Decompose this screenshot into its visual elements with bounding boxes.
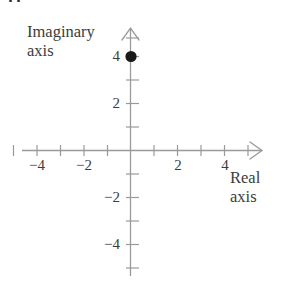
real-axis-label: Real axis xyxy=(230,168,260,206)
imaginary-axis-label: Imaginary axis xyxy=(27,22,95,60)
ytick-label-4: 4 xyxy=(100,49,120,64)
ytick-label-neg2: −2 xyxy=(92,190,120,205)
complex-plane-figure: 11. xyxy=(0,0,291,283)
plotted-point-4i xyxy=(125,51,136,62)
ytick-label-neg4: −4 xyxy=(92,237,120,252)
ytick-label-2: 2 xyxy=(100,96,120,111)
imaginary-axis-ticks xyxy=(126,38,139,268)
imaginary-axis-label-line1: Imaginary xyxy=(27,22,95,41)
real-axis-label-line2: axis xyxy=(230,187,260,206)
xtick-label-neg4: −4 xyxy=(25,158,49,173)
xtick-label-2: 2 xyxy=(167,158,189,173)
imaginary-axis-label-line2: axis xyxy=(27,41,95,60)
xtick-label-neg2: −2 xyxy=(72,158,96,173)
xtick-label-4: 4 xyxy=(214,158,236,173)
